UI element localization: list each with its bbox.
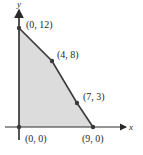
vertex-label-0-0: (0, 0) bbox=[25, 133, 47, 145]
vertex-label-7-3: (7, 3) bbox=[83, 91, 105, 103]
vertex-dot-9-0 bbox=[91, 125, 95, 129]
x-axis-label: x bbox=[128, 122, 133, 132]
vertex-dot-7-3 bbox=[75, 101, 79, 105]
vertex-label-9-0: (9, 0) bbox=[82, 133, 104, 145]
feasible-region-diagram: x y (0, 12) (4, 8) (7, 3) (9, 0) (0, 0) bbox=[0, 0, 143, 155]
vertex-label-0-12: (0, 12) bbox=[26, 19, 53, 31]
vertex-dot-0-12 bbox=[17, 26, 21, 30]
vertex-dot-4-8 bbox=[50, 59, 54, 63]
vertex-dot-0-0 bbox=[17, 125, 21, 129]
y-axis-label: y bbox=[16, 0, 21, 9]
feasible-region bbox=[19, 28, 93, 127]
vertex-label-4-8: (4, 8) bbox=[57, 49, 79, 61]
